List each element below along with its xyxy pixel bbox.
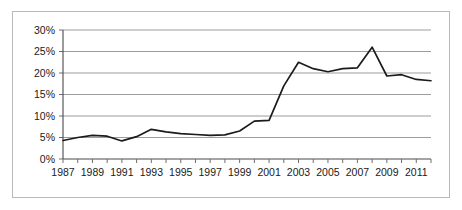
y-axis-tick-label: 20% <box>34 67 55 79</box>
y-axis-tick-label: 30% <box>34 24 55 36</box>
y-tick-marks-group <box>59 30 63 159</box>
x-axis-tick-label: 1995 <box>169 166 193 178</box>
line-chart-plot: 0%5%10%15%20%25%30% 19871989199119931995… <box>13 12 449 197</box>
y-axis-tick-label: 10% <box>34 110 55 122</box>
chart-figure: 0%5%10%15%20%25%30% 19871989199119931995… <box>12 11 450 198</box>
gridlines-group <box>63 30 431 138</box>
y-axis-tick-label: 25% <box>34 45 55 57</box>
x-axis-tick-label: 2009 <box>375 166 399 178</box>
x-axis-tick-label: 1997 <box>199 166 223 178</box>
x-axis-tick-label: 1987 <box>51 166 75 178</box>
x-axis-tick-label: 1991 <box>110 166 134 178</box>
x-axis-labels-group: 1987198919911993199519971999200120032005… <box>51 166 427 178</box>
x-axis-tick-label: 1989 <box>81 166 105 178</box>
x-axis-tick-label: 2005 <box>316 166 340 178</box>
x-axis-tick-label: 1993 <box>140 166 164 178</box>
x-tick-marks-group <box>63 159 431 163</box>
y-axis-labels-group: 0%5%10%15%20%25%30% <box>34 24 55 165</box>
x-axis-tick-label: 2001 <box>257 166 281 178</box>
x-axis-tick-label: 2007 <box>346 166 370 178</box>
x-axis-tick-label: 2003 <box>287 166 311 178</box>
y-axis-tick-label: 5% <box>40 131 55 143</box>
x-axis-tick-label: 2011 <box>405 166 428 178</box>
x-axis-tick-label: 1999 <box>228 166 252 178</box>
y-axis-tick-label: 0% <box>40 153 55 165</box>
y-axis-tick-label: 15% <box>34 88 55 100</box>
